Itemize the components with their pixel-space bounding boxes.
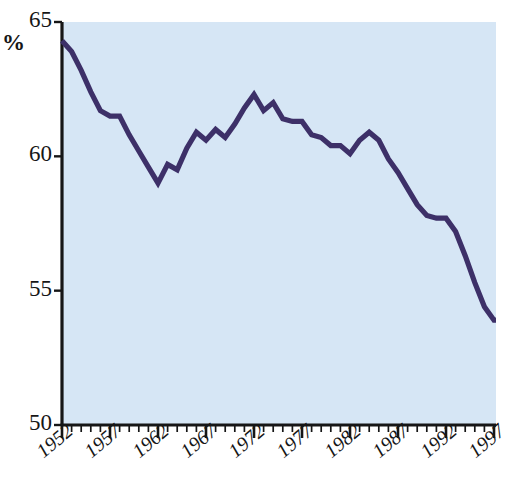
y-tick-label-55: 55 [0, 276, 52, 302]
y-tick-label-60: 60 [0, 141, 52, 167]
y-tick-label-65: 65 [0, 7, 52, 33]
line-chart-plot [0, 0, 517, 495]
y-tick-label-50: 50 [0, 410, 52, 436]
chart-figure: % 65 60 55 50 19521957196219671972197719… [0, 0, 517, 495]
y-axis-unit-label: % [2, 30, 25, 56]
plot-background [62, 22, 496, 425]
